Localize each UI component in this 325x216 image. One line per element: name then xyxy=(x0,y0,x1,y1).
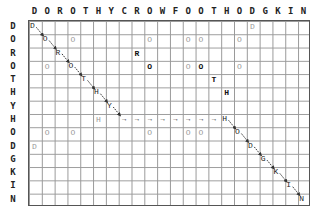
row-header: O xyxy=(6,60,20,73)
grid-cell-match: O xyxy=(143,60,156,73)
column-header: F xyxy=(169,5,182,17)
row-header: K xyxy=(6,166,20,179)
row-header: O xyxy=(6,126,20,139)
gap-arrow-icon: → xyxy=(182,113,195,126)
row-header: Y xyxy=(6,100,20,113)
row-header: D xyxy=(6,140,20,153)
column-header: T xyxy=(79,5,92,17)
grid-cell-match: D xyxy=(244,139,257,152)
column-header: D xyxy=(246,5,259,17)
grid-cell-match: T xyxy=(77,72,90,85)
grid-cell-match: Y xyxy=(103,99,116,112)
column-header: O xyxy=(195,5,208,17)
grid-cell-match: O xyxy=(233,60,246,73)
grid-cell-match: O xyxy=(39,32,52,45)
column-header: K xyxy=(272,5,285,17)
grid-cell-match: R xyxy=(131,47,144,60)
row-header: R xyxy=(6,47,20,60)
column-header: O xyxy=(233,5,246,17)
grid-cell-match: O xyxy=(195,33,208,46)
column-header: T xyxy=(207,5,220,17)
gap-arrow-icon: → xyxy=(118,113,131,126)
column-header: R xyxy=(54,5,67,17)
column-header: Y xyxy=(105,5,118,17)
column-header: N xyxy=(297,5,310,17)
grid-cell-match: G xyxy=(257,152,270,165)
row-header: I xyxy=(6,179,20,192)
column-header: O xyxy=(41,5,54,17)
grid-cell-match: D xyxy=(28,140,41,153)
grid-cell-match: O xyxy=(41,126,54,139)
grid-cell-match: O xyxy=(64,59,77,72)
row-header: T xyxy=(6,73,20,86)
column-header: G xyxy=(259,5,272,17)
column-header: O xyxy=(143,5,156,17)
gap-arrow-icon: → xyxy=(131,113,144,126)
row-header: O xyxy=(6,33,20,46)
grid-cell-match: R xyxy=(52,46,65,59)
grid-cell-match: O xyxy=(66,33,79,46)
column-header: I xyxy=(284,5,297,17)
row-header: G xyxy=(6,153,20,166)
row-header: H xyxy=(6,113,20,126)
grid-cell-match: O xyxy=(41,60,54,73)
column-header: W xyxy=(156,5,169,17)
row-header: H xyxy=(6,86,20,99)
grid-cell-match: O xyxy=(233,33,246,46)
grid-cell-match: O xyxy=(195,60,208,73)
grid-cell-match: O xyxy=(143,33,156,46)
grid-cell-match: H xyxy=(92,113,105,126)
grid-cell-match: O xyxy=(182,126,195,139)
grid-cell-match: T xyxy=(207,73,220,86)
grid-cell-match: O xyxy=(143,126,156,139)
grid-cell-match: D xyxy=(26,19,39,32)
column-header: C xyxy=(118,5,131,17)
row-header: N xyxy=(6,193,20,206)
grid-cell-match: O xyxy=(182,33,195,46)
column-header: O xyxy=(182,5,195,17)
gap-arrow-icon: → xyxy=(156,113,169,126)
row-header: D xyxy=(6,20,20,33)
grid-cell-match: O xyxy=(195,126,208,139)
column-header: D xyxy=(28,5,41,17)
gap-arrow-icon: → xyxy=(195,113,208,126)
gap-arrow-icon: → xyxy=(143,113,156,126)
column-header: O xyxy=(66,5,79,17)
column-header: H xyxy=(92,5,105,17)
grid-cell-match: H xyxy=(220,86,233,99)
grid-cell-match: O xyxy=(231,125,244,138)
grid-cell-match: D xyxy=(246,20,259,33)
grid-cell-match: O xyxy=(66,126,79,139)
column-header: H xyxy=(220,5,233,17)
grid-cell-match: O xyxy=(182,60,195,73)
grid-cell-match: H xyxy=(90,85,103,98)
grid-cell-match: I xyxy=(282,178,295,191)
gap-arrow-icon: → xyxy=(207,113,220,126)
gap-arrow-icon: → xyxy=(169,113,182,126)
grid-cell-match: K xyxy=(270,165,283,178)
grid-cell-match: N xyxy=(295,192,308,205)
column-header: R xyxy=(131,5,144,17)
